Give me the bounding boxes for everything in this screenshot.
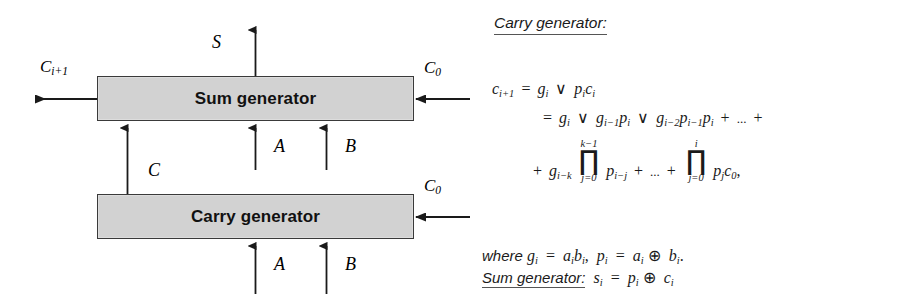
sum-generator-label: Sum generator: <box>482 269 585 288</box>
plus-icon: + <box>750 109 765 126</box>
heading-carry-generator: Carry generator: <box>494 14 607 35</box>
plus-icon: + <box>631 162 646 179</box>
eq1-equals: = <box>518 80 533 97</box>
product-operator-2: i ∏ j=0 <box>686 150 706 183</box>
block-carry-generator[interactable]: Carry generator <box>97 194 414 239</box>
diagram-wires <box>0 0 470 308</box>
label-signal-sum-c0: C0 <box>424 58 441 78</box>
eq1-lhs-sub: i+1 <box>499 88 514 99</box>
label-signal-intermediate-c: C <box>148 160 160 181</box>
where-body: gi = aibi, pi = ai ⊕ bi. <box>527 247 684 264</box>
plus-icon: + <box>718 109 733 126</box>
label-signal-sum-c0-sub: 0 <box>435 66 441 78</box>
xor-icon: ⊕ <box>643 269 656 286</box>
where-clause: where gi = aibi, pi = ai ⊕ bi. <box>482 246 684 266</box>
product-2-upper-limit: i <box>686 139 706 150</box>
eq2-equals: = <box>540 109 555 126</box>
label-signal-carry-c0: C0 <box>424 176 441 196</box>
product-1-upper-limit: k−1 <box>579 139 599 150</box>
plus-icon: + <box>664 162 679 179</box>
equation-line-1: ci+1 = gi ∨ pici <box>492 79 595 99</box>
product-operator-1: k−1 ∏ j=0 <box>579 150 599 183</box>
or-icon: ∨ <box>552 80 570 97</box>
label-carry-input-b: B <box>345 254 356 275</box>
label-sum-input-b: B <box>345 136 356 157</box>
xor-icon: ⊕ <box>648 247 661 264</box>
block-diagram: Sum generator Carry generator S Ci+1 C0 … <box>0 0 470 308</box>
equation-line-2: = gi ∨ gi−1pi ∨ gi−2pi−1pi + ... + <box>540 108 765 128</box>
label-signal-carry-c0-sub: 0 <box>435 184 441 196</box>
block-carry-generator-label: Carry generator <box>191 207 320 227</box>
label-signal-carry-out-sub: i+1 <box>51 65 68 77</box>
ellipsis-icon: ... <box>650 164 660 179</box>
ellipsis-icon: ... <box>737 111 747 126</box>
sum-generator-body: si = pi ⊕ ci <box>590 269 674 286</box>
product-icon: ∏ <box>579 150 599 172</box>
or-icon: ∨ <box>574 109 592 126</box>
label-signal-carry-out: Ci+1 <box>40 57 68 77</box>
block-sum-generator-label: Sum generator <box>195 89 316 109</box>
equations-panel: Carry generator: ci+1 = gi ∨ pici = gi ∨… <box>470 0 902 308</box>
label-carry-input-a: A <box>274 254 285 275</box>
where-label: where <box>482 247 523 264</box>
equation-line-3: + gi−k k−1 ∏ j=0 pi−j + ... + i ∏ j=0 pj… <box>530 150 741 183</box>
product-icon: ∏ <box>686 150 706 172</box>
sum-generator-clause: Sum generator: si = pi ⊕ ci <box>482 268 674 288</box>
product-1-lower-limit: j=0 <box>579 172 599 183</box>
or-icon: ∨ <box>634 109 652 126</box>
label-sum-input-a: A <box>274 136 285 157</box>
plus-icon: + <box>530 162 545 179</box>
product-2-lower-limit: j=0 <box>686 172 706 183</box>
figure-canvas: Sum generator Carry generator S Ci+1 C0 … <box>0 0 902 308</box>
label-signal-s: S <box>212 32 221 53</box>
block-sum-generator[interactable]: Sum generator <box>97 76 414 121</box>
